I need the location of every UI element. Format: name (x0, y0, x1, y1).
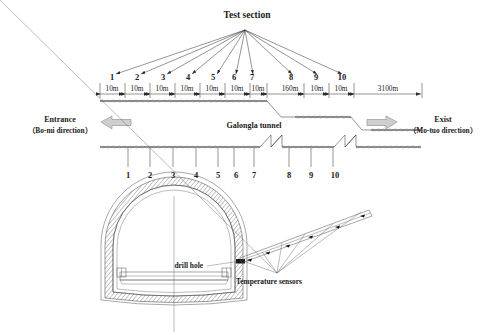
exit-title: Exist (434, 115, 452, 124)
tunnel-name-label: Galongla tunnel (227, 121, 283, 130)
entrance-direction: （Bo-mi direction） (28, 126, 91, 135)
section-number: 8 (289, 72, 293, 82)
section-number: 10 (331, 170, 340, 180)
section-number: 5 (216, 170, 220, 180)
section-number: 6 (232, 72, 236, 82)
pointer-arrow-fan (116, 30, 342, 74)
dimension-label: 160m (282, 84, 299, 93)
tunnel-test-section-diagram: Test section 1 2 3 4 5 6 7 8 9 10 (0, 0, 494, 335)
tunnel-cross-section: drill hole (0, 0, 372, 332)
section-number: 7 (252, 170, 257, 180)
dimension-label: 10m (181, 84, 194, 93)
section-number: 8 (287, 170, 291, 180)
entrance-title: Entrance (44, 115, 76, 124)
section-number: 2 (135, 72, 139, 82)
dimension-label-row: 10m 10m 10m 10m 10m 10m 10m 160m 10m 10m… (106, 84, 399, 93)
section-number: 1 (126, 170, 130, 180)
section-number: 1 (110, 72, 114, 82)
section-number: 10 (338, 72, 347, 82)
section-tick-row-bottom: 1 2 3 4 5 6 7 8 9 10 (126, 148, 339, 180)
figure-canvas: Test section 1 2 3 4 5 6 7 8 9 10 (0, 0, 494, 335)
section-number: 5 (211, 72, 215, 82)
section-number: 6 (234, 170, 238, 180)
dimension-label: 10m (311, 84, 324, 93)
dimension-label: 10m (335, 84, 348, 93)
entrance-label-group: Entrance （Bo-mi direction） (28, 115, 131, 135)
right-arrow-icon (367, 116, 397, 129)
dimension-label: 10m (252, 84, 265, 93)
drill-hole-detail-wedge (0, 0, 372, 273)
dimension-label: 10m (156, 84, 169, 93)
dimension-label: 10m (131, 84, 144, 93)
page-title: Test section (224, 10, 272, 20)
drill-hole-label: drill hole (174, 261, 203, 270)
temperature-sensors-label: Temperature sensors (236, 277, 302, 286)
section-number: 4 (186, 72, 191, 82)
dimension-label: 3100m (378, 84, 399, 93)
exit-direction: （Mo-tuo direction） (409, 126, 476, 135)
section-number: 9 (314, 72, 318, 82)
section-number-row-top: 1 2 3 4 5 6 7 8 9 10 (110, 72, 346, 82)
section-number: 9 (309, 170, 313, 180)
exit-label-group: Exist （Mo-tuo direction） (367, 115, 477, 135)
dimension-label: 10m (206, 84, 219, 93)
left-arrow-icon (101, 116, 131, 129)
drill-hole-annotation: drill hole (174, 261, 237, 270)
dimension-label: 10m (106, 84, 119, 93)
dimension-label: 10m (231, 84, 244, 93)
tunnel-lower-wall (100, 135, 421, 147)
section-number: 7 (250, 72, 255, 82)
section-number: 3 (161, 72, 165, 82)
section-number: 2 (148, 170, 152, 180)
